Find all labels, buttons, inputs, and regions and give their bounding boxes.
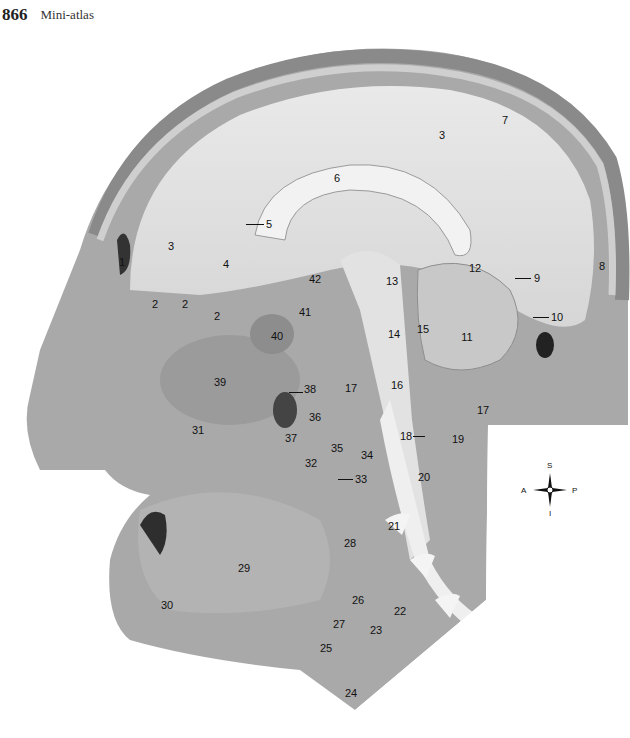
figure-label-21: 21 [388,521,400,532]
figure-label-30: 30 [161,600,173,611]
figure-label-3: 3 [439,130,445,141]
figure-label-36: 36 [309,412,321,423]
sagittal-section-figure [0,0,630,738]
figure-label-20: 20 [418,472,430,483]
figure-label-10: 10 [551,312,563,323]
leader-line-38 [289,392,303,393]
figure-label-1: 1 [119,257,125,268]
running-head: Mini-atlas [41,7,94,23]
figure-label-40: 40 [271,331,283,342]
compass-superior: S [547,461,552,470]
compass-inferior: I [549,509,551,518]
figure-label-2: 2 [182,299,188,310]
figure-label-17: 17 [345,383,357,394]
leader-line-33 [338,479,353,480]
figure-label-32: 32 [305,458,317,469]
orientation-compass: S I A P [525,465,575,515]
figure-label-8: 8 [599,261,605,272]
figure-label-26: 26 [352,595,364,606]
figure-label-22: 22 [394,606,406,617]
figure-label-18: 18 [400,431,412,442]
figure-label-17: 17 [477,405,489,416]
figure-label-12: 12 [469,263,481,274]
page-number: 866 [2,5,28,25]
figure-label-28: 28 [344,538,356,549]
figure-label-16: 16 [391,380,403,391]
figure-label-38: 38 [304,384,316,395]
figure-label-9: 9 [534,273,540,284]
page-header: 866 Mini-atlas [0,0,94,30]
figure-label-31: 31 [192,425,204,436]
compass-rose-icon [525,465,575,515]
figure-label-41: 41 [299,307,311,318]
figure-label-42: 42 [309,274,321,285]
figure-label-7: 7 [502,115,508,126]
compass-anterior: A [521,486,526,495]
figure-label-4: 4 [223,259,229,270]
compass-posterior: P [572,486,577,495]
figure-label-35: 35 [331,443,343,454]
figure-label-6: 6 [334,173,340,184]
leader-line-9 [515,278,531,279]
figure-label-23: 23 [370,625,382,636]
figure-label-3: 3 [168,241,174,252]
leader-line-5 [246,224,264,225]
figure-label-11: 11 [461,332,472,343]
figure-label-19: 19 [452,434,464,445]
leader-line-10 [533,317,549,318]
figure-label-2: 2 [214,311,220,322]
figure-label-14: 14 [388,329,400,340]
figure-label-24: 24 [345,688,357,699]
figure-label-13: 13 [386,276,398,287]
oral-cavity [273,392,297,428]
figure-label-27: 27 [333,619,345,630]
figure-label-33: 33 [355,474,367,485]
figure-label-39: 39 [214,377,226,388]
figure-label-29: 29 [238,563,250,574]
figure-label-15: 15 [417,324,429,335]
leader-line-18 [413,436,425,437]
figure-label-25: 25 [320,643,332,654]
figure-label-5: 5 [266,219,272,230]
figure-label-2: 2 [152,299,158,310]
figure-label-34: 34 [361,450,373,461]
figure-label-37: 37 [285,433,297,444]
